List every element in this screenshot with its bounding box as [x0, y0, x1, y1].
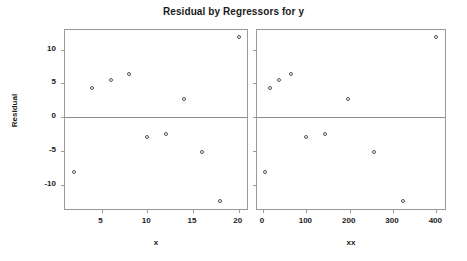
x-axis-tick-label: 10 [131, 216, 161, 225]
data-point-marker [372, 150, 376, 154]
page-title: Residual by Regressors for y [0, 6, 467, 17]
x-axis-tick-label: 300 [377, 216, 407, 225]
y-axis-tick [61, 151, 65, 152]
data-point-marker [277, 78, 281, 82]
data-point-marker [268, 86, 272, 90]
x-axis-tick [263, 209, 264, 213]
plot-area-right [257, 30, 445, 209]
data-point-marker [127, 72, 131, 76]
y-axis-tick [61, 83, 65, 84]
panel-residual-vs-xx [256, 29, 446, 210]
data-point-marker [182, 97, 186, 101]
y-axis-tick [61, 117, 65, 118]
plot-area-left [65, 30, 247, 209]
y-axis-tick [253, 117, 257, 118]
x-axis-tick [436, 209, 437, 213]
x-axis-tick-label: 200 [334, 216, 364, 225]
x-axis-tick [350, 209, 351, 213]
x-axis-tick [239, 209, 240, 213]
y-axis-tick-label: -5 [30, 145, 56, 154]
x-axis-tick-label: 0 [247, 216, 277, 225]
y-axis-title: Residual [10, 81, 19, 141]
data-point-marker [304, 135, 308, 139]
y-axis-tick-label: 5 [30, 77, 56, 86]
data-point-marker [289, 72, 293, 76]
data-point-marker [200, 150, 204, 154]
y-axis-tick [253, 50, 257, 51]
y-axis-tick-label: 0 [30, 111, 56, 120]
data-point-marker [145, 135, 149, 139]
x-axis-tick [193, 209, 194, 213]
x-axis-tick-label: 100 [290, 216, 320, 225]
data-point-marker [90, 86, 94, 90]
residual-plot-screenshot: Residual by Regressors for y Residual x … [0, 0, 467, 261]
y-axis-tick [253, 151, 257, 152]
data-point-marker [218, 199, 222, 203]
x-axis-tick [393, 209, 394, 213]
zero-reference-line [65, 117, 247, 118]
panel-residual-vs-x [64, 29, 248, 210]
y-axis-tick [61, 50, 65, 51]
x-axis-tick [102, 209, 103, 213]
data-point-marker [401, 199, 405, 203]
x-axis-tick-label: 5 [86, 216, 116, 225]
y-axis-tick [253, 185, 257, 186]
x-axis-tick [147, 209, 148, 213]
x-axis-title-left: x [64, 238, 248, 247]
x-axis-title-right: xx [256, 238, 446, 247]
data-point-marker [323, 132, 327, 136]
data-point-marker [237, 35, 241, 39]
data-point-marker [346, 97, 350, 101]
data-point-marker [263, 170, 267, 174]
y-axis-tick [61, 185, 65, 186]
x-axis-tick [306, 209, 307, 213]
data-point-marker [109, 78, 113, 82]
data-point-marker [434, 35, 438, 39]
y-axis-tick-label: -10 [30, 179, 56, 188]
x-axis-tick-label: 400 [420, 216, 450, 225]
zero-reference-line [257, 117, 445, 118]
data-point-marker [72, 170, 76, 174]
data-point-marker [164, 132, 168, 136]
y-axis-tick [253, 83, 257, 84]
y-axis-tick-label: 10 [30, 44, 56, 53]
x-axis-tick-label: 15 [177, 216, 207, 225]
